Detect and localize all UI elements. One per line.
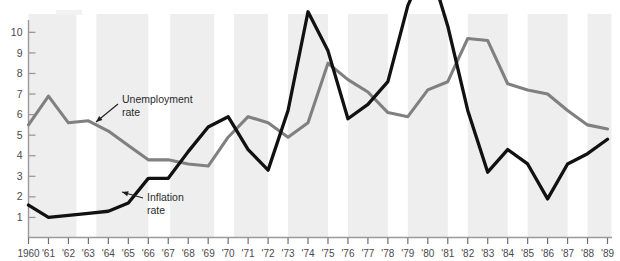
annotation-label-line1: Unemployment	[122, 93, 193, 105]
shaded-band	[528, 14, 568, 238]
y-tick-label: 2	[17, 190, 23, 202]
y-tick-label: 4	[17, 149, 23, 161]
x-tick-label: '78	[381, 248, 394, 259]
x-tick-label: '62	[62, 248, 75, 259]
x-tick-label: '82	[461, 248, 474, 259]
x-tick-label: '69	[202, 248, 215, 259]
y-tick-label: 9	[17, 47, 23, 59]
x-tick-label: '85	[521, 248, 534, 259]
shaded-band	[288, 14, 328, 238]
shaded-band	[29, 14, 77, 238]
x-tick-label: '66	[142, 248, 155, 259]
y-tick-label: 7	[17, 88, 23, 100]
x-tick-label: '83	[481, 248, 494, 259]
x-tick-label: '71	[242, 248, 255, 259]
annotation-label-line2: rate	[147, 204, 165, 216]
y-tick-label: 8	[17, 67, 23, 79]
shaded-band	[408, 14, 448, 238]
x-tick-label: '61	[42, 248, 55, 259]
x-tick-label: '79	[401, 248, 414, 259]
x-tick-label: '74	[301, 248, 314, 259]
y-tick-label: 1	[17, 211, 23, 223]
x-tick-label: '76	[341, 248, 354, 259]
y-tick-label: 6	[17, 108, 23, 120]
y-tick-label: 5	[17, 129, 23, 141]
x-tick-label: '75	[321, 248, 334, 259]
top-edge-artifact	[56, 10, 82, 15]
x-tick-label: '86	[541, 248, 554, 259]
chart-page: 12345678910 1960'61'62'63'64'65'66'67'68…	[0, 0, 620, 261]
x-tick-label: '65	[122, 248, 135, 259]
x-tick-label: '80	[421, 248, 434, 259]
x-tick-label: '77	[361, 248, 374, 259]
x-tick-label: '67	[162, 248, 175, 259]
x-tick-label: '68	[182, 248, 195, 259]
x-tick-label: '84	[501, 248, 514, 259]
x-tick-label: 1960	[17, 248, 40, 259]
y-tick-label: 3	[17, 170, 23, 182]
x-tick-label: '88	[581, 248, 594, 259]
x-tick-label: '63	[82, 248, 95, 259]
x-tick-label: '64	[102, 248, 115, 259]
x-tick-label: '87	[561, 248, 574, 259]
shaded-band	[348, 14, 388, 238]
x-tick-label: '72	[262, 248, 275, 259]
y-tick-label: 10	[11, 26, 23, 38]
x-tick-label: '73	[282, 248, 295, 259]
annotation-label-line1: Inflation	[147, 191, 184, 203]
x-tick-label: '70	[222, 248, 235, 259]
x-tick-label: '81	[441, 248, 454, 259]
economic-indicators-line-chart: 12345678910 1960'61'62'63'64'65'66'67'68…	[0, 0, 620, 261]
annotation-label-line2: rate	[122, 106, 140, 118]
x-tick-label: '89	[601, 248, 614, 259]
